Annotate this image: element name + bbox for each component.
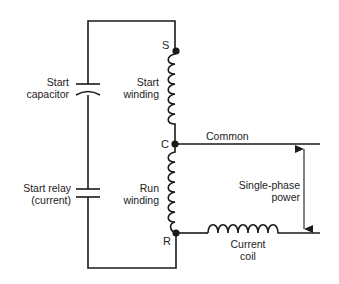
common-label: Common xyxy=(206,130,249,142)
single-phase-power-label-1: Single-phase xyxy=(239,179,300,191)
terminal-c-dot xyxy=(171,140,178,147)
start-capacitor-label-2: capacitor xyxy=(26,88,69,100)
run-winding-label-2: winding xyxy=(122,194,159,206)
terminal-s-dot xyxy=(172,47,179,54)
current-coil-label-2: coil xyxy=(240,250,256,262)
terminal-s-label: S xyxy=(162,39,169,51)
start-winding-coil xyxy=(168,51,175,144)
single-phase-power-label-2: power xyxy=(271,191,300,203)
start-capacitor-label-1: Start xyxy=(47,76,69,88)
run-winding-label-1: Run xyxy=(140,182,159,194)
motor-wiring-diagram: S C R Start capacitor Start winding Star… xyxy=(0,0,339,284)
start-capacitor-symbol xyxy=(76,84,100,95)
run-line xyxy=(176,225,320,233)
current-coil-label-1: Current xyxy=(230,238,265,250)
start-relay-label-1: Start relay xyxy=(23,182,72,194)
start-relay-label-2: (current) xyxy=(31,194,71,206)
current-coil xyxy=(208,225,282,233)
terminal-c-label: C xyxy=(161,138,169,150)
start-winding-label-2: winding xyxy=(122,88,159,100)
start-winding-label-1: Start xyxy=(137,76,159,88)
start-relay-contacts-symbol xyxy=(76,189,100,197)
terminal-r-label: R xyxy=(163,235,171,247)
terminal-r-dot xyxy=(172,229,179,236)
run-winding-coil xyxy=(168,144,176,233)
